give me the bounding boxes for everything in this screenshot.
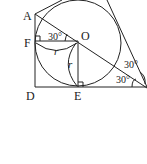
label-D: D — [26, 89, 35, 103]
geometry-diagram: A F O D E 30° r r 30° 30° — [0, 0, 147, 164]
radius-label-OE: r — [68, 58, 73, 70]
label-F: F — [24, 36, 31, 50]
angle-label-right-upper: 30° — [124, 59, 138, 70]
angle-label-O: 30° — [48, 31, 62, 42]
radius-label-FO: r — [54, 45, 59, 57]
label-A: A — [23, 9, 32, 23]
label-E: E — [74, 89, 81, 103]
angle-label-right-lower: 30° — [116, 74, 130, 85]
label-O: O — [81, 29, 90, 43]
